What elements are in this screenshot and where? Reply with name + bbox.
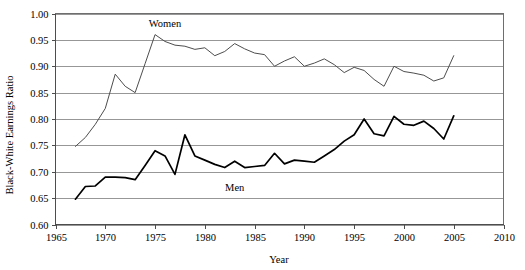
- y-tick-label: 0.75: [30, 140, 48, 151]
- earnings-ratio-line-chart: 0.600.650.700.750.800.850.900.951.00 196…: [0, 0, 525, 270]
- x-tick-label: 1975: [145, 232, 166, 243]
- y-axis-title: Black-White Earnings Ratio: [4, 76, 15, 195]
- x-tick-labels: 1965197019751980198519901995200020052010: [46, 232, 515, 243]
- gridlines-group: [56, 15, 504, 226]
- y-tick-label: 0.85: [30, 88, 48, 99]
- y-tick-label: 0.65: [30, 193, 48, 204]
- x-axis-title: Year: [269, 254, 289, 265]
- y-tick-label: 0.95: [30, 35, 48, 46]
- x-tick-label: 2000: [394, 232, 415, 243]
- x-tick-label: 2005: [444, 232, 465, 243]
- series-annotation-women: Women: [149, 18, 182, 29]
- data-series-group: [75, 35, 453, 200]
- y-tick-label: 0.80: [30, 114, 48, 125]
- series-line-women: [75, 35, 453, 147]
- x-tick-label: 1985: [245, 232, 266, 243]
- x-tick-label: 1980: [195, 232, 216, 243]
- x-tick-label: 1970: [95, 232, 116, 243]
- x-tick-label: 1965: [46, 232, 67, 243]
- y-tick-labels: 0.600.650.700.750.800.850.900.951.00: [30, 9, 48, 231]
- y-tick-label: 0.70: [30, 167, 48, 178]
- x-tick-label: 1990: [294, 232, 315, 243]
- series-line-men: [75, 116, 453, 199]
- series-annotation-men: Men: [225, 182, 245, 193]
- plot-area-border: [56, 14, 504, 225]
- y-tick-label: 0.60: [30, 220, 48, 231]
- x-tick-label: 2010: [494, 232, 515, 243]
- series-annotations: WomenMen: [149, 18, 245, 193]
- y-tick-label: 0.90: [30, 61, 48, 72]
- x-tick-label: 1995: [344, 232, 365, 243]
- plot-frame: [56, 14, 504, 225]
- y-tick-label: 1.00: [30, 9, 48, 20]
- chart-figure: 0.600.650.700.750.800.850.900.951.00 196…: [0, 0, 525, 270]
